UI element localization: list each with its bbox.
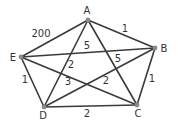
edge-a-c [88,20,137,105]
edge-weight-a-b: 1 [122,23,128,34]
edge-weight-a-c: 5 [115,53,121,64]
vertex-label-d: D [39,110,47,121]
vertex-b [153,46,158,51]
vertex-label-b: B [161,43,168,54]
edge-weight-a-e: 200 [31,28,50,39]
weighted-graph: 200155232112ABCDE [0,0,178,125]
vertex-e [19,55,24,60]
vertex-label-a: A [84,5,91,16]
edge-weight-e-b: 5 [84,40,90,51]
vertex-label-e: E [10,52,16,63]
edge-weight-e-c: 3 [65,76,71,87]
vertex-a [86,18,91,23]
edge-weight-a-d: 2 [68,59,74,70]
edge-weight-d-c: 2 [84,108,90,119]
edge-d-c [44,105,137,107]
vertex-d [42,105,47,110]
edge-e-c [21,57,137,105]
edge-weight-b-c: 1 [149,73,155,84]
edge-weight-e-d: 1 [22,74,28,85]
vertex-c [135,103,140,108]
vertex-label-c: C [135,108,142,119]
edge-weight-d-b: 2 [103,75,109,86]
